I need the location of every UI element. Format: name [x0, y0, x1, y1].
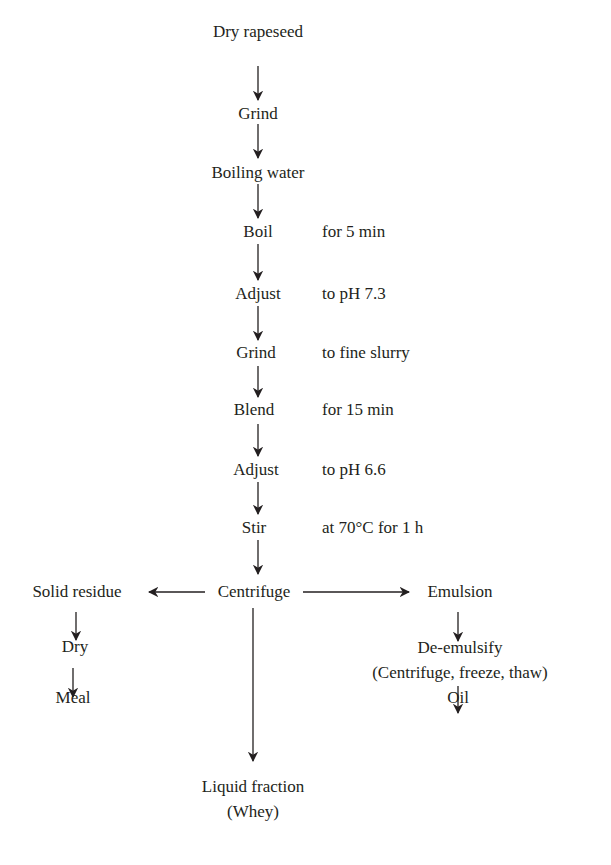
whey: (Whey)	[227, 802, 279, 822]
de-emulsify-detail: (Centrifuge, freeze, thaw)	[372, 663, 548, 683]
step-adjust-1: Adjust	[235, 284, 280, 304]
note-boil: for 5 min	[322, 222, 385, 242]
meal: Meal	[56, 688, 91, 708]
step-boil: Boil	[243, 222, 272, 242]
step-boiling-water: Boiling water	[211, 163, 304, 183]
emulsion: Emulsion	[427, 582, 492, 602]
step-grind-2: Grind	[236, 343, 276, 363]
solid-residue: Solid residue	[32, 582, 121, 602]
note-adjust-2: to pH 6.6	[322, 460, 386, 480]
note-blend: for 15 min	[322, 400, 394, 420]
flow-arrows	[0, 0, 611, 865]
step-dry-rapeseed: Dry rapeseed	[213, 22, 303, 42]
note-stir: at 70°C for 1 h	[322, 518, 423, 538]
oil: Oil	[447, 688, 469, 708]
de-emulsify: De-emulsify	[418, 638, 503, 658]
step-blend: Blend	[234, 400, 275, 420]
step-adjust-2: Adjust	[233, 460, 278, 480]
step-centrifuge: Centrifuge	[218, 582, 291, 602]
dry: Dry	[62, 637, 88, 657]
note-grind-2: to fine slurry	[322, 343, 410, 363]
liquid-fraction: Liquid fraction	[202, 777, 304, 797]
note-adjust-1: to pH 7.3	[322, 284, 386, 304]
step-grind: Grind	[238, 104, 278, 124]
step-stir: Stir	[242, 518, 267, 538]
